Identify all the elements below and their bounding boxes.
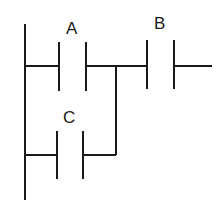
label-c: C: [63, 108, 75, 127]
contact-c: [57, 131, 83, 179]
label-b: B: [154, 14, 165, 33]
contact-a: [59, 42, 86, 91]
ladder-diagram: A B C: [0, 0, 221, 209]
rung-1: [25, 40, 212, 91]
rung-2-branch: [25, 131, 116, 179]
label-a: A: [66, 19, 78, 38]
contact-b: [147, 40, 174, 89]
